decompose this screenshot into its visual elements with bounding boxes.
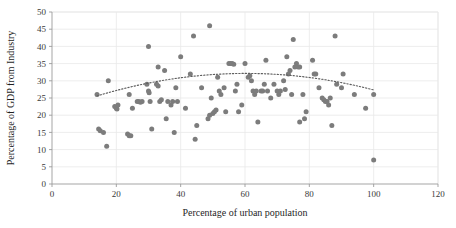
- y-axis-title: Percentage of GDP from Industry: [5, 31, 16, 166]
- data-point: [233, 89, 238, 94]
- data-point: [115, 102, 120, 107]
- x-tick-label: 120: [431, 189, 445, 199]
- data-point: [297, 120, 302, 125]
- y-tick-label: 40: [37, 42, 47, 52]
- x-tick-label: 80: [305, 189, 315, 199]
- data-point: [114, 107, 119, 112]
- data-point: [170, 99, 175, 104]
- y-tick-label: 25: [37, 93, 47, 103]
- data-point: [352, 92, 357, 97]
- data-point: [302, 116, 307, 121]
- data-point: [304, 109, 309, 114]
- data-point: [254, 89, 259, 94]
- data-point: [260, 89, 265, 94]
- data-point: [341, 71, 346, 76]
- data-point: [263, 58, 268, 63]
- data-point: [371, 92, 376, 97]
- data-point: [130, 106, 135, 111]
- data-point: [199, 85, 204, 90]
- data-point: [288, 68, 293, 73]
- data-point: [326, 102, 331, 107]
- data-point: [329, 123, 334, 128]
- data-point: [310, 58, 315, 63]
- chart-canvas: 05101520253035404550 020406080100120 Per…: [0, 0, 456, 228]
- y-tick-label: 35: [37, 59, 47, 69]
- x-axis-title: Percentage of urban population: [182, 207, 307, 218]
- data-point: [214, 108, 219, 113]
- data-point: [149, 126, 154, 131]
- data-point: [371, 157, 376, 162]
- data-point: [194, 123, 199, 128]
- y-tick-label: 10: [37, 145, 47, 155]
- data-point: [262, 82, 267, 87]
- data-point: [188, 71, 193, 76]
- data-point: [148, 99, 153, 104]
- data-point: [175, 99, 180, 104]
- y-tick-label: 0: [42, 179, 47, 189]
- x-tick-label: 40: [176, 189, 186, 199]
- data-point: [289, 92, 294, 97]
- data-point: [164, 116, 169, 121]
- data-point: [193, 137, 198, 142]
- data-point: [236, 109, 241, 114]
- data-point: [297, 65, 302, 70]
- data-point: [281, 78, 286, 83]
- x-tick-label: 60: [241, 189, 251, 199]
- y-tick-label: 5: [42, 162, 47, 172]
- data-point: [291, 37, 296, 42]
- data-point: [173, 85, 178, 90]
- scatter-chart: 05101520253035404550 020406080100120 Per…: [0, 0, 456, 228]
- data-point: [218, 92, 223, 97]
- data-point: [239, 102, 244, 107]
- data-point: [333, 34, 338, 39]
- x-tick-label: 0: [50, 189, 55, 199]
- data-point: [284, 54, 289, 59]
- data-point: [313, 71, 318, 76]
- y-tick-label: 20: [37, 110, 47, 120]
- data-point: [127, 92, 132, 97]
- data-point: [268, 96, 273, 101]
- data-point: [271, 82, 276, 87]
- data-point: [222, 85, 227, 90]
- data-point: [234, 82, 239, 87]
- data-point: [223, 109, 228, 114]
- x-tick-label: 100: [367, 189, 381, 199]
- data-point: [172, 130, 177, 135]
- data-point: [178, 54, 183, 59]
- data-point: [147, 90, 152, 95]
- data-point: [207, 23, 212, 28]
- data-point: [156, 65, 161, 70]
- data-point: [278, 89, 283, 94]
- x-axis-tick-labels: 020406080100120: [50, 189, 446, 199]
- data-point: [300, 92, 305, 97]
- data-point: [209, 96, 214, 101]
- y-axis-tick-labels: 05101520253035404550: [37, 7, 47, 189]
- data-point: [101, 130, 106, 135]
- data-point: [183, 106, 188, 111]
- data-point: [106, 78, 111, 83]
- y-tick-label: 30: [37, 76, 47, 86]
- y-tick-label: 15: [37, 128, 47, 138]
- data-point: [249, 78, 254, 83]
- data-point: [243, 61, 248, 66]
- data-point: [363, 106, 368, 111]
- data-point: [215, 75, 220, 80]
- data-point: [316, 85, 321, 90]
- data-point: [104, 144, 109, 149]
- data-point: [191, 34, 196, 39]
- data-point: [231, 62, 236, 67]
- data-point: [162, 68, 167, 73]
- data-point: [339, 85, 344, 90]
- data-point: [328, 96, 333, 101]
- x-tick-label: 20: [112, 189, 122, 199]
- data-point: [255, 120, 260, 125]
- data-point: [265, 89, 270, 94]
- data-point: [140, 99, 145, 104]
- data-point: [283, 87, 288, 92]
- data-point: [159, 97, 164, 102]
- y-tick-label: 45: [37, 24, 47, 34]
- data-point: [128, 133, 133, 138]
- data-point: [146, 44, 151, 49]
- data-point: [156, 83, 161, 88]
- y-tick-label: 50: [37, 7, 47, 17]
